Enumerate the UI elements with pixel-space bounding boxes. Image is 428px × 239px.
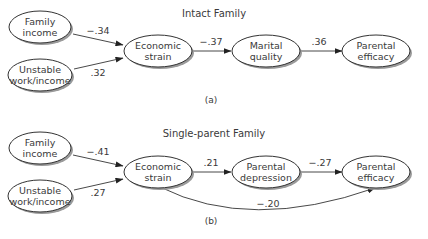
coef-b-strain-efficacy: −.20 (256, 198, 279, 209)
svg-text:income: income (23, 27, 58, 38)
panel-b-title: Single-parent Family (163, 128, 266, 139)
coef-a-marital-efficacy: .36 (311, 36, 326, 47)
svg-text:efficacy: efficacy (358, 172, 395, 183)
svg-text:strain: strain (144, 172, 171, 183)
panel-a-title: Intact Family (182, 8, 246, 19)
svg-text:quality: quality (250, 51, 283, 62)
node-b-parental-depression: Parental depression (232, 156, 302, 190)
svg-text:strain: strain (144, 51, 171, 62)
svg-text:Parental: Parental (357, 161, 396, 172)
svg-text:Economic: Economic (135, 40, 181, 51)
coef-a-family-income: −.34 (86, 25, 109, 36)
node-a-economic-strain: Economic strain (124, 35, 194, 69)
panel-a-caption: (a) (205, 95, 218, 105)
panel-b-caption: (b) (205, 216, 218, 226)
coef-b-strain-depression: .21 (203, 157, 218, 168)
svg-text:Parental: Parental (357, 40, 396, 51)
svg-text:Unstable: Unstable (19, 64, 61, 75)
panel-b-single-parent-family: Single-parent Family −.41 .27 .21 −.27 −… (8, 128, 412, 226)
coef-b-depression-efficacy: −.27 (308, 157, 331, 168)
coef-a-unstable: .32 (90, 67, 105, 78)
node-b-family-income: Family income (9, 132, 73, 166)
node-b-economic-strain: Economic strain (124, 156, 194, 190)
node-a-unstable-work: Unstable work/income (8, 59, 74, 93)
svg-text:work/income: work/income (10, 75, 71, 86)
svg-text:Family: Family (25, 16, 56, 27)
node-a-parental-efficacy: Parental efficacy (342, 35, 412, 69)
node-a-family-income: Family income (9, 11, 73, 45)
svg-text:Marital: Marital (250, 40, 283, 51)
svg-text:Economic: Economic (135, 161, 181, 172)
svg-text:Unstable: Unstable (19, 185, 61, 196)
panel-a-intact-family: Intact Family −.34 .32 −.37 .36 Family i… (8, 8, 412, 105)
coef-b-unstable: .27 (90, 187, 105, 198)
svg-text:income: income (23, 148, 58, 159)
coef-b-family-income: −.41 (86, 146, 109, 157)
svg-text:work/income: work/income (10, 196, 71, 207)
node-a-marital-quality: Marital quality (232, 35, 302, 69)
node-b-parental-efficacy: Parental efficacy (342, 156, 412, 190)
node-b-unstable-work: Unstable work/income (8, 180, 74, 214)
coef-a-strain-marital: −.37 (199, 36, 222, 47)
svg-text:efficacy: efficacy (358, 51, 395, 62)
svg-text:Family: Family (25, 137, 56, 148)
path-diagram: Intact Family −.34 .32 −.37 .36 Family i… (0, 0, 428, 239)
svg-text:Parental: Parental (247, 161, 286, 172)
svg-text:depression: depression (240, 172, 292, 183)
